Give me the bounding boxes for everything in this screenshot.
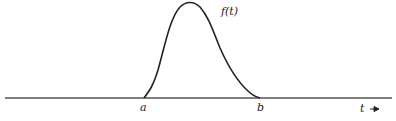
pulse-diagram (0, 0, 396, 121)
point-a-label: a (140, 101, 147, 114)
axis-label-t: t (360, 102, 364, 115)
pulse-curve (144, 3, 260, 99)
curve-label: f(t) (221, 5, 238, 18)
point-b-label: b (257, 101, 264, 114)
arrow-icon (370, 107, 379, 112)
